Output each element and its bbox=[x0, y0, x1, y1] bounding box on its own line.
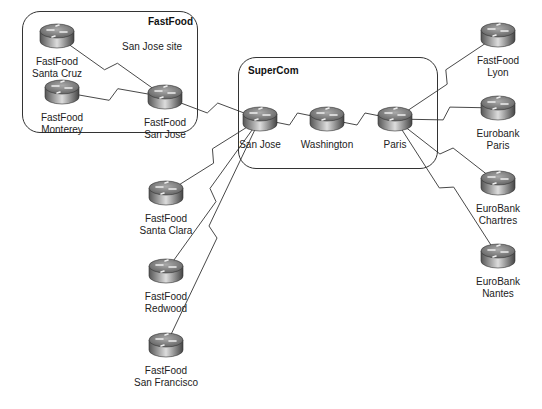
label-line: FastFood bbox=[41, 112, 83, 124]
label-line: EuroBank bbox=[476, 203, 520, 215]
label-line: San Francisco bbox=[134, 377, 198, 389]
router-icon bbox=[148, 332, 184, 358]
router-label-ff-santacruz: FastFoodSanta Cruz bbox=[32, 56, 82, 80]
group-title: FastFood bbox=[148, 16, 193, 27]
router-icon bbox=[148, 180, 184, 206]
router-icon bbox=[480, 243, 516, 269]
label-line: EuroBank bbox=[476, 276, 520, 288]
group-title: SuperCom bbox=[248, 65, 299, 76]
router-label-sc-sanjose: San Jose bbox=[239, 139, 281, 151]
label-line: FastFood bbox=[144, 117, 186, 129]
label-line: San Jose bbox=[144, 129, 186, 141]
router-icon bbox=[480, 95, 516, 121]
router-icon bbox=[377, 106, 413, 132]
router-icon bbox=[44, 79, 80, 105]
router-icon bbox=[480, 170, 516, 196]
label-line: FastFood bbox=[32, 56, 82, 68]
label-line: Lyon bbox=[477, 67, 519, 79]
router-label-ff-monterey: FastFoodMonterey bbox=[41, 112, 83, 136]
router-icon bbox=[480, 22, 516, 48]
label-line: Washington bbox=[301, 139, 353, 151]
router-label-eb-chartres: EuroBankChartres bbox=[476, 203, 520, 227]
label-line: FastFood bbox=[140, 213, 193, 225]
label-line: FastFood bbox=[477, 55, 519, 67]
label-line: Santa Clara bbox=[140, 225, 193, 237]
router-icon bbox=[309, 106, 345, 132]
router-label-ff-sanfrancisco: FastFoodSan Francisco bbox=[134, 365, 198, 389]
label-line: Chartres bbox=[476, 215, 520, 227]
group-subtitle: San Jose site bbox=[122, 41, 182, 52]
router-label-ff-redwood: FastFoodRedwood bbox=[145, 291, 187, 315]
router-label-eb-paris: EurobankParis bbox=[477, 128, 520, 152]
router-icon bbox=[147, 84, 183, 110]
label-line: Paris bbox=[384, 139, 407, 151]
label-line: Redwood bbox=[145, 303, 187, 315]
router-icon bbox=[148, 258, 184, 284]
label-line: FastFood bbox=[134, 365, 198, 377]
label-line: San Jose bbox=[239, 139, 281, 151]
label-line: Eurobank bbox=[477, 128, 520, 140]
router-label-sc-washington: Washington bbox=[301, 139, 353, 151]
label-line: Monterey bbox=[41, 124, 83, 136]
router-icon bbox=[242, 106, 278, 132]
router-label-ff-santaclara: FastFoodSanta Clara bbox=[140, 213, 193, 237]
router-label-sc-paris: Paris bbox=[384, 139, 407, 151]
label-line: Nantes bbox=[476, 288, 520, 300]
router-label-ff-sanjose: FastFoodSan Jose bbox=[144, 117, 186, 141]
router-icon bbox=[39, 23, 75, 49]
label-line: Paris bbox=[477, 140, 520, 152]
router-label-ff-lyon: FastFoodLyon bbox=[477, 55, 519, 79]
label-line: FastFood bbox=[145, 291, 187, 303]
router-label-eb-nantes: EuroBankNantes bbox=[476, 276, 520, 300]
